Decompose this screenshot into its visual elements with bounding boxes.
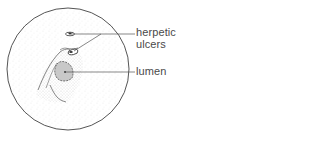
label-ulcers: ulcers — [136, 39, 166, 50]
label-herpetic: herpetic — [136, 27, 176, 38]
label-lumen: lumen — [136, 66, 166, 77]
